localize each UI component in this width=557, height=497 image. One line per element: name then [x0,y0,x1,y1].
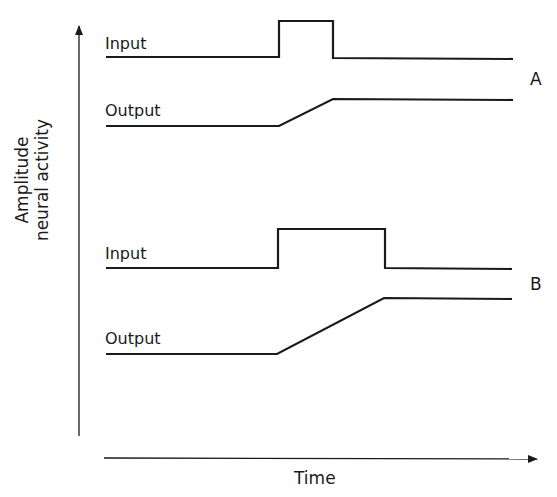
panel-a-input-label: Input [105,36,146,52]
panel-a-output-trace [106,99,513,126]
diagram-canvas [0,0,557,497]
panel-b-input-label: Input [105,246,146,262]
panel-a-marker: A [530,71,542,87]
panel-a-output-label: Output [105,103,161,119]
y-axis-label-line1: Amplitude [12,80,32,280]
x-axis [104,458,537,459]
y-axis-label-line2: neural activity [32,80,52,280]
panel-b-output-label: Output [105,331,161,347]
panel-a-input-trace [106,21,513,59]
panel-b-marker: B [530,276,542,292]
panel-b-input-trace [106,229,512,269]
y-axis-label: Amplitude neural activity [12,80,52,280]
x-axis-label: Time [294,470,336,486]
panel-b-output-trace [106,298,512,354]
